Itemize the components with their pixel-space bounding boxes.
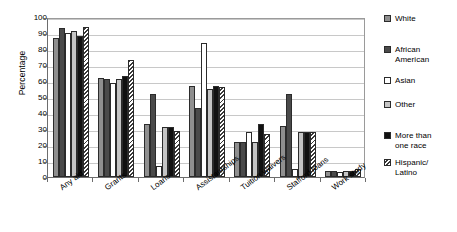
legend-swatch-icon [384, 132, 391, 139]
bar-groups [48, 19, 364, 177]
x-tick-mark [320, 178, 321, 182]
bar [83, 27, 89, 177]
x-tick-mark [229, 178, 230, 182]
x-tick-mark [138, 178, 139, 182]
bar [150, 94, 156, 177]
legend-label: Other [395, 100, 415, 110]
legend-item[interactable]: More thanone race [384, 131, 457, 150]
legend-swatch-icon [384, 159, 391, 166]
bar-group [53, 19, 89, 177]
legend-item[interactable]: Hispanic/Latino [384, 158, 457, 177]
bar [128, 60, 134, 177]
bar-group [325, 19, 361, 177]
legend-item[interactable]: Other [384, 100, 457, 110]
x-tick-mark [47, 178, 48, 182]
legend-swatch-icon [384, 77, 391, 84]
x-tick-mark [92, 178, 93, 182]
legend-swatch-icon [384, 101, 391, 108]
legend-label: Asian [395, 76, 415, 86]
legend-label: Hispanic/Latino [395, 158, 428, 177]
bar [174, 131, 180, 177]
bar-group [234, 19, 270, 177]
x-tick-mark [274, 178, 275, 182]
legend-label: AfricanAmerican [395, 45, 429, 64]
bar-group [280, 19, 316, 177]
x-tick-mark [365, 178, 366, 182]
legend-label: White [395, 14, 416, 24]
plot-area [47, 18, 365, 178]
legend-label: More thanone race [395, 131, 431, 150]
bar-chart: Percentage 0102030405060708090100 Any ai… [0, 0, 457, 232]
legend-swatch-icon [384, 15, 391, 22]
bar-group [144, 19, 180, 177]
legend-item[interactable]: AfricanAmerican [384, 45, 457, 64]
bar-group [189, 19, 225, 177]
legend-item[interactable]: Asian [384, 76, 457, 86]
legend-swatch-icon [384, 46, 391, 53]
y-axis-tick-labels: 0102030405060708090100 [18, 18, 47, 178]
legend-item[interactable]: White [384, 14, 457, 24]
x-tick-mark [183, 178, 184, 182]
bar [286, 94, 292, 177]
bar-group [98, 19, 134, 177]
